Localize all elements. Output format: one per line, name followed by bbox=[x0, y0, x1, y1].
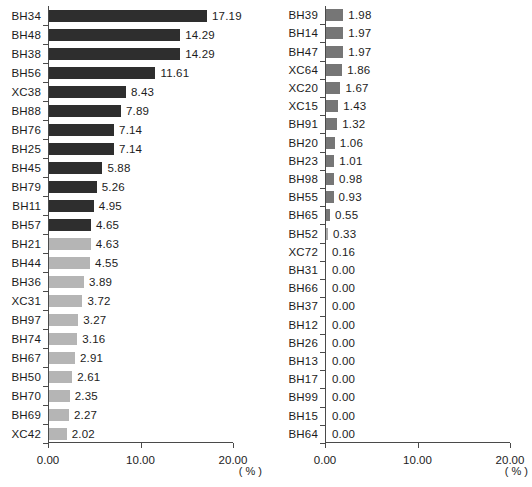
category-label: BH26 bbox=[288, 337, 318, 349]
bar bbox=[48, 314, 78, 326]
value-label: 0.00 bbox=[332, 391, 355, 403]
bar-row: XC641.86 bbox=[325, 61, 510, 79]
bar-row: BH257.14 bbox=[48, 139, 233, 158]
value-label: 0.16 bbox=[332, 246, 355, 258]
value-label: 17.19 bbox=[212, 10, 242, 22]
value-label: 7.14 bbox=[119, 124, 142, 136]
value-label: 3.16 bbox=[82, 333, 105, 345]
bar-row: BH973.27 bbox=[48, 310, 233, 329]
value-label: 1.67 bbox=[345, 82, 368, 94]
category-label: BH20 bbox=[288, 137, 318, 149]
bar-row: BH214.63 bbox=[48, 234, 233, 253]
value-label: 7.89 bbox=[126, 105, 149, 117]
category-label: BH52 bbox=[288, 228, 318, 240]
bar-row: BH795.26 bbox=[48, 177, 233, 196]
x-axis-tick-label: 0.00 bbox=[314, 454, 336, 466]
category-label: BH17 bbox=[288, 373, 318, 385]
category-label: BH44 bbox=[11, 257, 41, 269]
unit-label-right: ( % ) bbox=[505, 465, 528, 477]
x-axis-tick-label: 10.00 bbox=[403, 454, 432, 466]
bar bbox=[48, 162, 102, 174]
bar-rows-left: BH3417.19BH4814.29BH3814.29BH5611.61XC38… bbox=[48, 6, 233, 443]
bar-row: BH3417.19 bbox=[48, 6, 233, 25]
category-label: BH13 bbox=[288, 355, 318, 367]
bar-row: BH141.97 bbox=[325, 24, 510, 42]
bar bbox=[325, 191, 334, 203]
value-label: 1.98 bbox=[348, 9, 371, 21]
bar-row: BH692.27 bbox=[48, 405, 233, 424]
bar-row: BH887.89 bbox=[48, 101, 233, 120]
bar-row: BH170.00 bbox=[325, 370, 510, 388]
bar bbox=[325, 155, 334, 167]
bar bbox=[48, 48, 180, 60]
bar-row: BH5611.61 bbox=[48, 63, 233, 82]
category-label: XC20 bbox=[288, 82, 318, 94]
bar-row: BH550.93 bbox=[325, 188, 510, 206]
category-label: BH39 bbox=[288, 9, 318, 21]
category-label: BH34 bbox=[11, 10, 41, 22]
category-label: BH48 bbox=[11, 29, 41, 41]
value-label: 0.55 bbox=[335, 209, 358, 221]
value-label: 1.86 bbox=[347, 64, 370, 76]
bar-row: BH130.00 bbox=[325, 352, 510, 370]
value-label: 1.32 bbox=[342, 118, 365, 130]
category-label: BH31 bbox=[288, 264, 318, 276]
bar bbox=[325, 46, 343, 58]
bar-row: BH4814.29 bbox=[48, 25, 233, 44]
bar bbox=[325, 100, 338, 112]
bar bbox=[48, 333, 77, 345]
x-axis-tick-label: 0.00 bbox=[37, 454, 59, 466]
value-label: 0.93 bbox=[339, 191, 362, 203]
bar bbox=[48, 371, 72, 383]
bar-row: BH743.16 bbox=[48, 329, 233, 348]
value-label: 11.61 bbox=[160, 67, 189, 79]
value-label: 2.35 bbox=[75, 390, 98, 402]
bar-rows-right: BH391.98BH141.97BH471.97XC641.86XC201.67… bbox=[325, 6, 510, 443]
value-label: 4.95 bbox=[99, 200, 122, 212]
value-label: 1.43 bbox=[343, 100, 366, 112]
category-label: BH45 bbox=[11, 162, 41, 174]
category-label: BH76 bbox=[11, 124, 41, 136]
value-label: 0.00 bbox=[332, 300, 355, 312]
value-label: 0.00 bbox=[332, 428, 355, 440]
bar bbox=[48, 29, 180, 41]
bar-row: BH650.55 bbox=[325, 206, 510, 224]
bar-row: BH231.01 bbox=[325, 152, 510, 170]
bar bbox=[48, 276, 84, 288]
plot-area-left: BH3417.19BH4814.29BH3814.29BH5611.61XC38… bbox=[48, 6, 233, 443]
category-label: BH57 bbox=[11, 219, 41, 231]
x-axis-tick-label: 10.00 bbox=[126, 454, 155, 466]
value-label: 4.63 bbox=[96, 238, 119, 250]
value-label: 14.29 bbox=[185, 29, 215, 41]
chart-panel-left: BH3417.19BH4814.29BH3814.29BH5611.61XC38… bbox=[0, 0, 266, 487]
value-label: 4.65 bbox=[96, 219, 119, 231]
bar-row: XC422.02 bbox=[48, 424, 233, 443]
category-label: BH14 bbox=[288, 27, 318, 39]
category-label: BH15 bbox=[288, 410, 318, 422]
bar bbox=[325, 64, 342, 76]
value-label: 0.00 bbox=[332, 373, 355, 385]
category-label: XC38 bbox=[11, 86, 41, 98]
chart-panel-right: BH391.98BH141.97BH471.97XC641.86XC201.67… bbox=[275, 0, 532, 487]
value-label: 0.00 bbox=[332, 410, 355, 422]
bar-row: BH444.55 bbox=[48, 253, 233, 272]
value-label: 2.91 bbox=[80, 352, 103, 364]
bar-row: BH260.00 bbox=[325, 334, 510, 352]
value-label: 0.00 bbox=[332, 282, 355, 294]
bar bbox=[48, 143, 114, 155]
bar-row: BH114.95 bbox=[48, 196, 233, 215]
bar bbox=[48, 124, 114, 136]
category-label: BH98 bbox=[288, 173, 318, 185]
category-label: BH23 bbox=[288, 155, 318, 167]
bar bbox=[325, 9, 343, 21]
value-label: 3.72 bbox=[87, 295, 110, 307]
value-label: 8.43 bbox=[131, 86, 154, 98]
value-label: 2.61 bbox=[77, 371, 100, 383]
category-label: XC42 bbox=[11, 428, 41, 440]
category-label: BH38 bbox=[11, 48, 41, 60]
bar-row: XC720.16 bbox=[325, 243, 510, 261]
x-axis-tick bbox=[48, 443, 49, 448]
unit-label-left: ( % ) bbox=[239, 465, 262, 477]
bar bbox=[48, 86, 126, 98]
value-label: 0.00 bbox=[332, 264, 355, 276]
